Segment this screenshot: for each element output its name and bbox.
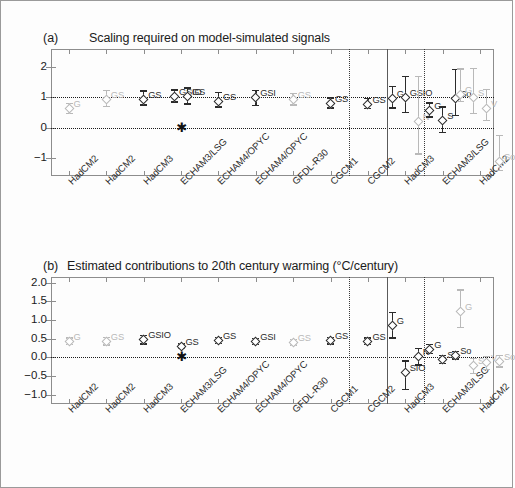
y-axis-tick-inner bbox=[51, 301, 56, 302]
data-point-label: GS bbox=[298, 333, 311, 343]
error-bar-cap bbox=[483, 120, 490, 121]
error-bar-cap bbox=[457, 101, 464, 102]
x-axis-tick-top bbox=[218, 277, 219, 282]
error-bar-cap bbox=[402, 76, 409, 77]
x-axis-tick-top bbox=[368, 49, 369, 54]
error-bar-cap bbox=[252, 90, 259, 91]
error-bar-cap bbox=[215, 92, 222, 93]
y-axis-label: 2.0 bbox=[7, 276, 47, 288]
y-axis-label: 1 bbox=[7, 90, 47, 102]
data-point-label: GSI bbox=[260, 332, 275, 342]
error-bar-cap bbox=[103, 90, 110, 91]
error-bar-cap bbox=[140, 104, 147, 105]
data-point-label: G bbox=[434, 340, 441, 350]
x-axis-tick-top bbox=[293, 49, 294, 54]
zero-reference-asterisk: ✱ bbox=[177, 350, 188, 363]
data-point-label: GS bbox=[148, 90, 161, 100]
panel-b-tag: (b) bbox=[43, 259, 58, 273]
error-bar-cap bbox=[389, 312, 396, 313]
y-axis-label: −1 bbox=[7, 151, 47, 163]
y-axis-label: −1.0 bbox=[7, 388, 47, 400]
x-axis-tick-top bbox=[480, 277, 481, 282]
error-bar-cap bbox=[439, 106, 446, 107]
panel-a-title: Scaling required on model-simulated sign… bbox=[89, 31, 330, 45]
x-axis-tick-top bbox=[106, 277, 107, 282]
data-point-label: GSIO bbox=[148, 330, 170, 340]
x-axis-tick-top bbox=[256, 49, 257, 54]
error-bar-cap bbox=[439, 132, 446, 133]
data-point-label: S bbox=[447, 111, 453, 121]
y-axis-tick-inner bbox=[51, 67, 56, 68]
x-axis-tick-top bbox=[69, 277, 70, 282]
data-point-label: GS bbox=[111, 332, 124, 342]
data-point-label: G bbox=[74, 99, 81, 109]
error-bar-cap bbox=[470, 373, 477, 374]
error-bar-cap bbox=[470, 358, 477, 359]
zero-reference-asterisk: ✱ bbox=[177, 121, 188, 134]
y-axis-label: 1.5 bbox=[7, 294, 47, 306]
error-bar-cap bbox=[252, 105, 259, 106]
error-bar-cap bbox=[457, 327, 464, 328]
y-axis-tick-inner bbox=[51, 283, 56, 284]
error-bar-cap bbox=[402, 112, 409, 113]
error-bar-cap bbox=[496, 366, 503, 367]
data-point-label: So bbox=[504, 352, 515, 362]
x-axis-tick-top bbox=[405, 49, 406, 54]
data-point-label: So bbox=[460, 346, 471, 356]
x-axis-tick-top bbox=[106, 49, 107, 54]
error-bar-cap bbox=[184, 103, 191, 104]
error-bar-cap bbox=[415, 348, 422, 349]
data-point-label: GSI bbox=[260, 88, 275, 98]
x-axis-tick-top bbox=[331, 277, 332, 282]
data-point-label: G bbox=[397, 316, 404, 326]
y-axis-label: 2 bbox=[7, 60, 47, 72]
data-point-label: So bbox=[504, 152, 515, 162]
data-point-label: GS bbox=[111, 90, 124, 100]
error-bar-cap bbox=[496, 135, 503, 136]
error-bar bbox=[473, 68, 474, 114]
error-bar-cap bbox=[415, 76, 422, 77]
y-axis-tick-inner bbox=[51, 158, 56, 159]
data-point-label: GS bbox=[335, 331, 348, 341]
error-bar-cap bbox=[171, 89, 178, 90]
error-bar-cap bbox=[389, 337, 396, 338]
x-axis-tick-top bbox=[144, 277, 145, 282]
data-point-label: GS bbox=[335, 94, 348, 104]
x-axis-tick-top bbox=[480, 49, 481, 54]
data-point-label: GS bbox=[372, 95, 385, 105]
error-bar-cap bbox=[415, 364, 422, 365]
error-bar-cap bbox=[470, 113, 477, 114]
x-axis-tick-top bbox=[218, 49, 219, 54]
error-bar-cap bbox=[402, 389, 409, 390]
x-axis-tick-top bbox=[256, 277, 257, 282]
y-axis-tick-inner bbox=[51, 320, 56, 321]
data-point-label: GSIO bbox=[410, 88, 432, 98]
error-bar-cap bbox=[483, 89, 490, 90]
error-bar-cap bbox=[452, 115, 459, 116]
error-bar-cap bbox=[140, 90, 147, 91]
data-point-label: GS bbox=[223, 331, 236, 341]
error-bar bbox=[418, 76, 419, 155]
data-point-label: GS bbox=[372, 332, 385, 342]
error-bar-cap bbox=[184, 87, 191, 88]
reference-gridline bbox=[51, 357, 494, 358]
data-point-label: V bbox=[491, 99, 497, 109]
x-axis-tick-top bbox=[69, 49, 70, 54]
data-point-label: G bbox=[465, 302, 472, 312]
y-axis-label: −0.5 bbox=[7, 369, 47, 381]
data-point-label: GS bbox=[298, 90, 311, 100]
x-axis-tick-top bbox=[405, 277, 406, 282]
y-axis-tick-inner bbox=[51, 339, 56, 340]
data-point-label: G bbox=[74, 332, 81, 342]
error-bar-cap bbox=[426, 116, 433, 117]
error-bar-cap bbox=[483, 369, 490, 370]
x-axis-tick-top bbox=[181, 49, 182, 54]
error-bar-cap bbox=[457, 289, 464, 290]
error-bar-cap bbox=[426, 102, 433, 103]
x-axis-tick-top bbox=[443, 49, 444, 54]
error-bar-cap bbox=[171, 101, 178, 102]
panel-a-tag: (a) bbox=[43, 31, 58, 45]
y-axis-label: 0 bbox=[7, 121, 47, 133]
y-axis-label: 0.0 bbox=[7, 350, 47, 362]
data-point-label: GS bbox=[192, 87, 205, 97]
